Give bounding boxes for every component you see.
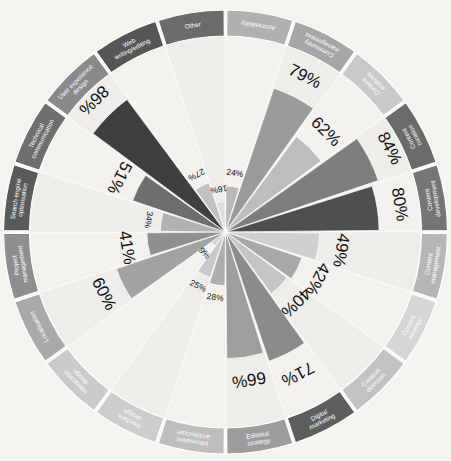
polar-rose-chart: AccessibilityCommunitymanagementContenta…	[0, 0, 451, 461]
chart-canvas: AccessibilityCommunitymanagementContenta…	[0, 0, 451, 461]
